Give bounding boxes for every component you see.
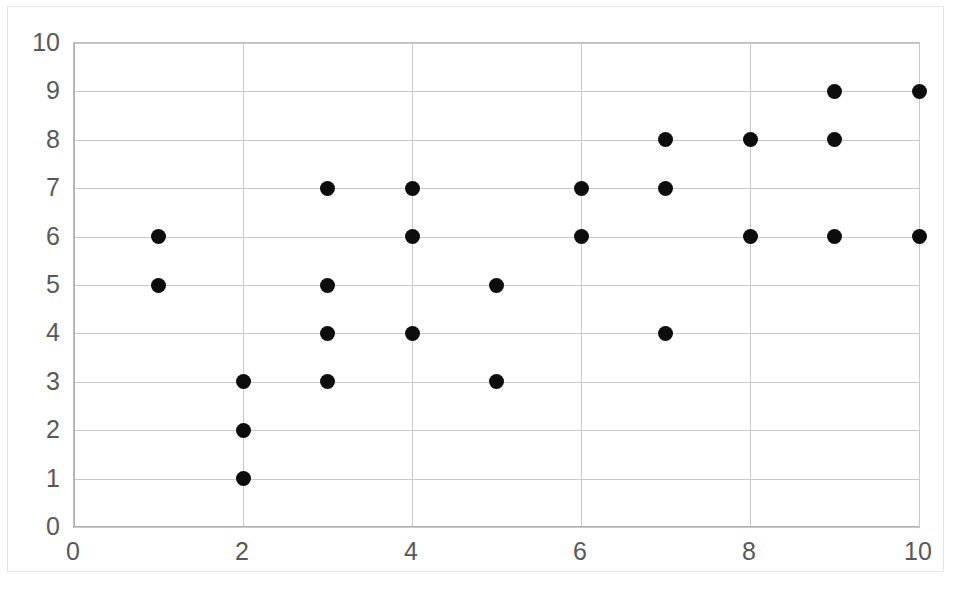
scatter-point (827, 229, 842, 244)
gridline-x-4 (412, 43, 413, 527)
gridline-y-2 (74, 430, 919, 431)
scatter-point (489, 278, 504, 293)
y-tick-label-5: 5 (14, 272, 60, 297)
x-tick-label-6: 6 (550, 539, 610, 564)
scatter-point (743, 132, 758, 147)
y-tick-label-9: 9 (14, 78, 60, 103)
gridline-y-0 (74, 527, 919, 528)
scatter-point (405, 181, 420, 196)
y-axis-tick-labels: 012345678910 (8, 42, 60, 528)
scatter-point (405, 229, 420, 244)
scatter-point (827, 84, 842, 99)
scatter-point (320, 374, 335, 389)
y-tick-label-0: 0 (14, 514, 60, 539)
y-tick-label-8: 8 (14, 126, 60, 151)
scatter-point (320, 326, 335, 341)
x-tick-label-0: 0 (43, 539, 103, 564)
x-tick-label-4: 4 (381, 539, 441, 564)
scatter-point (827, 132, 842, 147)
scatter-point (236, 471, 251, 486)
gridline-y-6 (74, 237, 919, 238)
gridline-y-1 (74, 479, 919, 480)
scatter-point (405, 326, 420, 341)
x-axis-tick-labels: 0246810 (73, 539, 920, 573)
y-tick-label-6: 6 (14, 223, 60, 248)
scatter-point (151, 229, 166, 244)
x-tick-label-8: 8 (719, 539, 779, 564)
gridline-x-2 (243, 43, 244, 527)
y-axis-line (74, 43, 75, 527)
gridline-y-7 (74, 188, 919, 189)
scatter-point (320, 181, 335, 196)
scatter-point (658, 181, 673, 196)
gridline-x-10 (919, 43, 920, 527)
y-tick-label-4: 4 (14, 320, 60, 345)
x-tick-label-2: 2 (212, 539, 272, 564)
scatter-point (658, 132, 673, 147)
y-tick-label-3: 3 (14, 368, 60, 393)
y-tick-label-2: 2 (14, 417, 60, 442)
x-axis-line (74, 526, 919, 527)
scatter-point (574, 181, 589, 196)
scatter-point (151, 278, 166, 293)
scatter-point (236, 423, 251, 438)
scatter-point (489, 374, 504, 389)
gridline-x-8 (750, 43, 751, 527)
scatter-point (743, 229, 758, 244)
gridline-y-4 (74, 333, 919, 334)
x-tick-label-10: 10 (888, 539, 948, 564)
chart-frame: 012345678910 0246810 (7, 6, 944, 572)
scatter-point (658, 326, 673, 341)
scatter-point (236, 374, 251, 389)
gridline-y-9 (74, 91, 919, 92)
scatter-point (912, 229, 927, 244)
scatter-point (574, 229, 589, 244)
scatter-point (912, 84, 927, 99)
gridline-y-8 (74, 140, 919, 141)
gridline-x-6 (581, 43, 582, 527)
plot-area (73, 42, 920, 528)
scatter-point (320, 278, 335, 293)
y-tick-label-10: 10 (14, 30, 60, 55)
gridline-y-10 (74, 43, 919, 44)
y-tick-label-7: 7 (14, 175, 60, 200)
y-tick-label-1: 1 (14, 465, 60, 490)
